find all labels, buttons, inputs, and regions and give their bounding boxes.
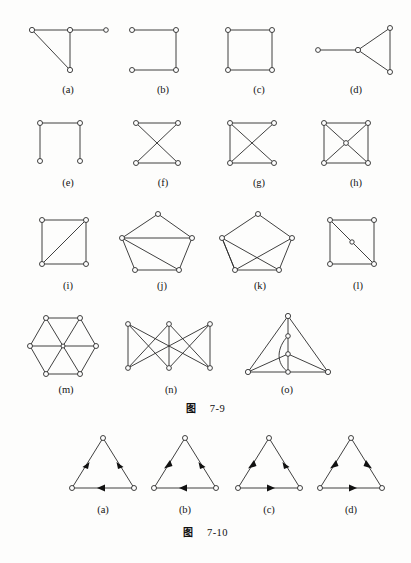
graph-o-drawing <box>232 310 342 382</box>
vertex <box>134 161 139 166</box>
vertex <box>344 141 349 146</box>
vertex <box>130 68 135 73</box>
vertex <box>176 121 181 126</box>
vertex <box>134 121 139 126</box>
graph-k-drawing <box>212 208 308 278</box>
figure-caption-number: 7-9 <box>210 403 226 414</box>
vertex <box>270 28 275 33</box>
arrowhead-icon <box>267 485 275 492</box>
figure-caption-number: 7-10 <box>207 527 228 538</box>
vertex <box>126 366 131 371</box>
graph-c-drawing <box>214 18 304 82</box>
digraph-label-b: (b) <box>142 504 228 515</box>
arrowhead-icon <box>330 460 339 469</box>
vertex <box>226 68 231 73</box>
vertex <box>176 161 181 166</box>
vertex <box>78 316 83 321</box>
vertex <box>316 48 321 53</box>
vertex <box>84 262 89 267</box>
vertex <box>349 436 354 441</box>
vertex <box>267 436 272 441</box>
graph-m-drawing <box>16 310 116 382</box>
vertex <box>328 262 333 267</box>
vertex <box>350 240 354 244</box>
vertex <box>270 68 275 73</box>
vertex <box>120 236 125 241</box>
graph-g-drawing <box>214 113 304 175</box>
vertex <box>322 161 327 166</box>
figure-7-9-row-1: (a) (b) <box>0 18 411 108</box>
graph-cell-b: (b) <box>118 18 208 82</box>
digraph-cell-c: (c) <box>226 430 312 502</box>
figure-page: (a) (b) <box>0 0 411 563</box>
vertex <box>84 218 89 223</box>
figure-7-9-caption: 图7-9 <box>0 400 411 415</box>
digraph-cell-b: (b) <box>142 430 228 502</box>
vertex <box>183 436 188 441</box>
graph-cell-f: (f) <box>118 113 208 175</box>
vertex <box>236 486 241 491</box>
vertex <box>44 316 49 321</box>
vertex <box>167 366 172 371</box>
digraph-label-c: (c) <box>226 504 312 515</box>
graph-label-h: (h) <box>308 177 404 188</box>
digraph-cell-d: (d) <box>308 430 394 502</box>
vertex <box>226 28 231 33</box>
vertex <box>277 268 282 273</box>
vertex <box>190 236 195 241</box>
graph-cell-m: (m) <box>16 310 116 382</box>
arrowhead-icon <box>364 460 373 469</box>
vertex <box>228 161 233 166</box>
vertex <box>366 121 371 126</box>
graph-cell-k: (k) <box>212 208 308 278</box>
vertex <box>228 121 233 126</box>
vertex <box>318 486 323 491</box>
graph-label-b: (b) <box>118 84 208 95</box>
arrowhead-icon <box>83 462 90 469</box>
vertex <box>388 70 393 75</box>
graph-cell-j: (j) <box>114 208 210 278</box>
vertex <box>208 322 213 327</box>
vertex <box>40 262 45 267</box>
vertex <box>78 159 83 164</box>
graph-a-drawing <box>18 18 118 82</box>
vertex <box>40 218 45 223</box>
vertex <box>156 212 161 217</box>
figure-7-10-caption: 图7-10 <box>0 524 411 539</box>
figure-caption-cjk: 图 <box>183 527 193 538</box>
vertex <box>322 121 327 126</box>
digraph-cell-a: (a) <box>60 430 146 502</box>
graph-label-c: (c) <box>214 84 304 95</box>
figure-7-10-row-1: (a) (b) <box>0 430 411 518</box>
graph-label-g: (g) <box>214 177 304 188</box>
figure-7-9-row-2: (e) (f) <box>0 113 411 203</box>
vertex <box>70 486 75 491</box>
graph-label-k: (k) <box>212 280 308 291</box>
graph-e-drawing <box>18 113 118 175</box>
vertex <box>38 121 43 126</box>
graph-label-a: (a) <box>18 84 118 95</box>
graph-cell-a: (a) <box>18 18 118 82</box>
vertex <box>372 218 377 223</box>
graph-b-drawing <box>118 18 208 82</box>
arrowhead-icon <box>164 460 173 469</box>
graph-label-m: (m) <box>16 384 116 395</box>
graph-j-drawing <box>114 208 210 278</box>
graph-cell-g: (g) <box>214 113 304 175</box>
graph-label-n: (n) <box>116 384 226 395</box>
graph-label-f: (f) <box>118 177 208 188</box>
graph-cell-c: (c) <box>214 18 304 82</box>
arrowhead-icon <box>248 460 257 469</box>
graph-label-d: (d) <box>308 84 404 95</box>
vertex <box>325 369 330 374</box>
vertex <box>101 436 106 441</box>
vertex <box>174 28 179 33</box>
vertex <box>177 268 182 273</box>
vertex <box>233 268 238 273</box>
arrowhead-icon <box>117 462 124 469</box>
vertex <box>132 486 137 491</box>
graph-d-drawing <box>308 18 404 82</box>
figure-7-9-row-4: (m) <box>0 310 411 404</box>
graph-h-drawing <box>308 113 404 175</box>
vertex <box>61 344 65 348</box>
